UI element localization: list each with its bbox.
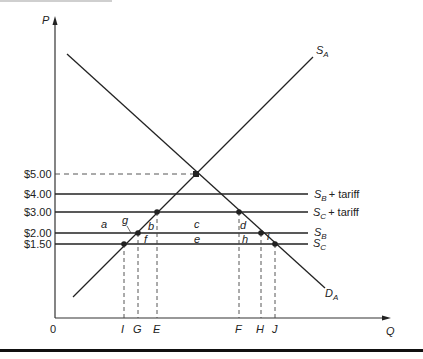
q-label-i: I xyxy=(121,323,124,335)
area-label-e: e xyxy=(194,233,200,245)
area-label-i: i xyxy=(267,230,270,242)
quantity-tick-labels: I G E F H J xyxy=(121,323,278,335)
point-h xyxy=(258,230,264,236)
tariff-supply-demand-diagram: P Q 0 $5.00 $4.00 $3.00 $2.00 $1.50 xyxy=(0,0,423,359)
q-label-h: H xyxy=(256,323,264,335)
axes: P Q 0 xyxy=(42,14,395,337)
price-label-1-50: $1.50 xyxy=(24,238,52,250)
q-label-j: J xyxy=(271,323,278,335)
price-label-3: $3.00 xyxy=(24,206,52,218)
price-tick-labels: $5.00 $4.00 $3.00 $2.00 $1.50 xyxy=(24,168,52,250)
point-f xyxy=(236,209,242,215)
sc-tariff-label: SC+ tariff xyxy=(313,206,360,221)
point-g xyxy=(135,230,141,236)
point-i xyxy=(121,241,127,247)
curve-labels: SA DA SB+ tariff SC+ tariff SB SC xyxy=(313,44,360,302)
sb-tariff-label: SB+ tariff xyxy=(314,188,360,203)
price-label-4: $4.00 xyxy=(24,188,52,200)
q-label-e: E xyxy=(153,323,161,335)
area-label-a: a xyxy=(101,218,107,230)
equilibrium-point xyxy=(193,171,199,177)
g-leader-line xyxy=(127,226,131,233)
quantity-drop-lines xyxy=(124,212,275,318)
sa-label: SA xyxy=(316,44,329,59)
origin-label: 0 xyxy=(50,323,56,335)
y-axis-arrow-icon xyxy=(53,16,58,25)
area-label-c: c xyxy=(194,218,200,230)
point-j xyxy=(272,241,278,247)
horizontal-supply-lines xyxy=(55,194,308,244)
bottom-rule xyxy=(0,349,423,352)
area-labels: a g b f c e d h i xyxy=(101,214,270,245)
area-label-f: f xyxy=(144,233,148,245)
x-axis-label: Q xyxy=(386,325,395,337)
y-axis-label: P xyxy=(42,14,50,26)
price-label-5: $5.00 xyxy=(24,168,52,180)
x-axis-arrow-icon xyxy=(382,316,391,321)
q-label-f: F xyxy=(235,323,243,335)
area-label-h: h xyxy=(242,233,248,245)
area-label-d: d xyxy=(240,219,247,231)
area-label-b: b xyxy=(148,220,154,232)
q-label-g: G xyxy=(133,323,142,335)
area-label-g: g xyxy=(122,214,129,226)
da-label: DA xyxy=(325,287,338,302)
point-e xyxy=(154,209,160,215)
